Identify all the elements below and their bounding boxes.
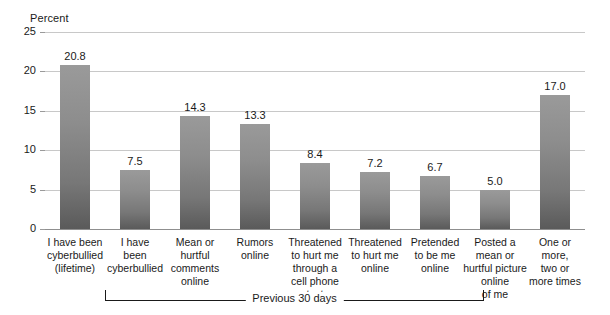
y-tick-mark-0 bbox=[40, 229, 45, 230]
bar bbox=[540, 95, 570, 229]
bar-value-label: 17.0 bbox=[532, 80, 578, 92]
x-axis-label: I have been cyberbullied bbox=[103, 236, 167, 275]
plot-area bbox=[45, 32, 585, 229]
x-axis-label: Pretended to be me online bbox=[403, 236, 467, 275]
y-tick-label-10: 10 bbox=[0, 143, 36, 155]
bracket-right-cap bbox=[483, 290, 484, 301]
y-tick-label-20: 20 bbox=[0, 64, 36, 76]
gridline-25 bbox=[45, 32, 585, 33]
y-axis-title: Percent bbox=[30, 12, 69, 24]
y-tick-mark-5 bbox=[40, 190, 45, 191]
y-tick-mark-20 bbox=[40, 71, 45, 72]
bar-chart: Percent 0510152025 I have been cyberbull… bbox=[0, 0, 610, 315]
bar bbox=[480, 190, 510, 229]
bar-value-label: 7.2 bbox=[352, 157, 398, 169]
bar-value-label: 7.5 bbox=[112, 155, 158, 167]
gridline-20 bbox=[45, 71, 585, 72]
x-axis-label: One or more, two or more times bbox=[523, 236, 587, 288]
bar bbox=[420, 176, 450, 229]
gridline-15 bbox=[45, 111, 585, 112]
bar bbox=[120, 170, 150, 229]
x-axis-label: Rumors online bbox=[223, 236, 287, 262]
bar-value-label: 20.8 bbox=[52, 50, 98, 62]
bar bbox=[180, 116, 210, 229]
previous-30-days-bracket: Previous 30 days bbox=[105, 290, 484, 301]
x-axis-label: Mean or hurtful comments online bbox=[163, 236, 227, 288]
x-axis-label: I have been cyberbullied (lifetime) bbox=[43, 236, 107, 275]
bar-value-label: 8.4 bbox=[292, 148, 338, 160]
y-tick-mark-15 bbox=[40, 111, 45, 112]
bracket-left-cap bbox=[105, 290, 106, 301]
bar-value-label: 5.0 bbox=[472, 175, 518, 187]
bar bbox=[360, 172, 390, 229]
y-tick-mark-10 bbox=[40, 150, 45, 151]
bar bbox=[60, 65, 90, 229]
bar-value-label: 6.7 bbox=[412, 161, 458, 173]
y-tick-label-15: 15 bbox=[0, 104, 36, 116]
y-tick-label-0: 0 bbox=[0, 222, 36, 234]
bar bbox=[300, 163, 330, 229]
y-tick-label-25: 25 bbox=[0, 25, 36, 37]
bracket-label: Previous 30 days bbox=[245, 292, 343, 304]
bar bbox=[240, 124, 270, 229]
bar-value-label: 14.3 bbox=[172, 101, 218, 113]
x-axis-label: Threatened to hurt me online bbox=[343, 236, 407, 275]
y-tick-mark-25 bbox=[40, 32, 45, 33]
bar-value-label: 13.3 bbox=[232, 109, 278, 121]
gridline-0 bbox=[45, 229, 585, 230]
y-tick-label-5: 5 bbox=[0, 183, 36, 195]
